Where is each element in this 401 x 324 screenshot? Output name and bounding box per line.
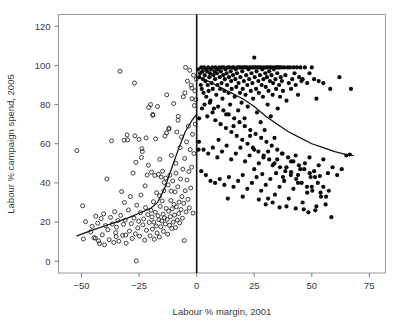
data-point-filled (296, 173, 300, 177)
data-point-filled (247, 77, 251, 81)
data-point-filled (259, 120, 263, 124)
y-tick-label: 0 (45, 256, 50, 267)
data-point-filled (211, 146, 215, 150)
data-point-filled (267, 157, 271, 161)
data-point-filled (287, 81, 291, 85)
data-point-filled (298, 167, 302, 171)
data-point-filled (232, 116, 236, 120)
data-point-filled (234, 151, 238, 155)
data-point-filled (274, 171, 278, 175)
data-point-filled (314, 97, 318, 101)
data-point-filled (271, 81, 275, 85)
data-point-filled (223, 77, 227, 81)
data-point-filled (200, 87, 204, 91)
data-point-filled (272, 136, 276, 140)
data-point-filled (219, 81, 223, 85)
data-point-filled (292, 71, 296, 75)
data-point-filled (264, 85, 268, 89)
data-point-filled (310, 185, 314, 189)
data-point-filled (303, 65, 307, 69)
data-point-filled (199, 83, 203, 87)
data-point-filled (220, 97, 224, 101)
data-point-filled (240, 138, 244, 142)
data-point-filled (252, 55, 256, 59)
data-point-filled (201, 148, 205, 152)
data-point-filled (305, 185, 309, 189)
data-point-filled (254, 175, 258, 179)
data-point-filled (281, 89, 285, 93)
data-point-filled (335, 173, 339, 177)
y-axis-title: Labour % campaign spend, 2005 (5, 74, 16, 213)
data-point-filled (257, 161, 261, 165)
data-point-filled (238, 91, 242, 95)
data-point-filled (216, 104, 220, 108)
data-point-filled (256, 79, 260, 83)
data-point-filled (283, 169, 287, 173)
data-point-filled (266, 149, 270, 153)
data-point-filled (275, 71, 279, 75)
data-point-filled (308, 171, 312, 175)
data-point-filled (280, 151, 284, 155)
x-tick-label: −50 (73, 280, 89, 291)
data-point-filled (228, 102, 232, 106)
data-point-filled (265, 75, 269, 79)
data-point-filled (230, 87, 234, 91)
data-point-filled (289, 170, 293, 174)
data-point-filled (203, 73, 207, 77)
data-point-filled (231, 124, 235, 128)
data-point-filled (286, 155, 290, 159)
data-point-filled (235, 71, 239, 75)
data-point-filled (238, 146, 242, 150)
data-point-filled (264, 183, 268, 187)
data-point-filled (314, 204, 318, 208)
data-point-filled (298, 65, 302, 69)
data-point-filled (242, 116, 246, 120)
data-point-filled (309, 175, 313, 179)
data-point-filled (275, 148, 279, 152)
data-point-filled (303, 161, 307, 165)
data-point-filled (248, 153, 252, 157)
data-point-filled (201, 91, 205, 95)
data-point-filled (321, 157, 325, 161)
data-point-filled (239, 101, 243, 105)
data-point-filled (242, 79, 246, 83)
data-point-filled (241, 173, 245, 177)
data-point-filled (284, 204, 288, 208)
data-point-filled (300, 181, 304, 185)
data-point-filled (257, 91, 261, 95)
figure-background (0, 0, 401, 324)
data-point-filled (271, 93, 275, 97)
data-point-filled (212, 106, 216, 110)
data-point-filled (305, 81, 309, 85)
data-point-filled (208, 101, 212, 105)
data-point-filled (273, 77, 277, 81)
data-point-filled (213, 77, 217, 81)
data-point-filled (327, 189, 331, 193)
data-point-filled (319, 195, 323, 199)
data-point-filled (283, 73, 287, 77)
data-point-filled (291, 187, 295, 191)
data-point-filled (249, 89, 253, 93)
data-point-filled (294, 206, 298, 210)
data-point-filled (321, 81, 325, 85)
data-point-filled (237, 120, 241, 124)
data-point-filled (216, 138, 220, 142)
data-point-filled (306, 210, 310, 214)
data-point-filled (278, 165, 282, 169)
data-point-filled (207, 89, 211, 93)
data-point-filled (264, 202, 268, 206)
data-point-filled (282, 179, 286, 183)
data-point-filled (273, 193, 277, 197)
data-point-filled (206, 151, 210, 155)
data-point-filled (296, 93, 300, 97)
data-point-filled (204, 95, 208, 99)
data-point-filled (330, 165, 334, 169)
data-point-filled (254, 87, 258, 91)
data-point-filled (227, 112, 231, 116)
data-point-filled (225, 71, 229, 75)
data-point-filled (307, 71, 311, 75)
data-point-filled (250, 181, 254, 185)
x-tick-label: −25 (131, 280, 147, 291)
data-point-filled (278, 95, 282, 99)
data-point-filled (277, 83, 281, 87)
